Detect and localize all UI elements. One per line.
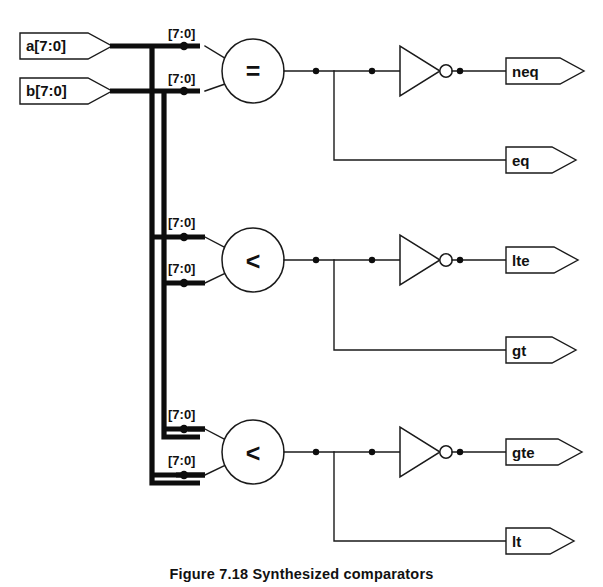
comparator-less-than-lower[interactable]: < — [205, 420, 284, 484]
net-lt-lower-junction-2 — [369, 449, 375, 455]
output-port-lt-label: lt — [512, 533, 521, 550]
figure-caption: Figure 7.18 Synthesized comparators — [0, 566, 603, 582]
inverter-lte-output-dot — [457, 257, 463, 263]
net-equal — [284, 68, 506, 160]
bus-tap-dot-4 — [180, 279, 188, 287]
input-port-b-label: b[7:0] — [26, 82, 67, 99]
net-equal-junction-1 — [313, 68, 319, 74]
inverter-neq-triangle — [400, 46, 440, 96]
inverter-gte[interactable] — [400, 427, 506, 477]
inverter-neq[interactable] — [400, 46, 506, 96]
inverter-gte-triangle — [400, 427, 440, 477]
output-port-eq-label: eq — [512, 152, 530, 169]
inverter-neq-bubble — [440, 65, 452, 77]
bus-width-label-4: [7:0] — [168, 261, 195, 276]
output-port-lte[interactable]: lte — [506, 247, 578, 273]
bus-width-label-2: [7:0] — [168, 71, 195, 86]
output-port-gt-label: gt — [512, 342, 526, 359]
inverter-neq-output-dot — [457, 68, 463, 74]
input-port-a[interactable]: a[7:0] — [20, 33, 112, 59]
net-equal-junction-2 — [369, 68, 375, 74]
output-port-gte-label: gte — [512, 444, 535, 461]
net-lt-upper-junction-1 — [313, 257, 319, 263]
bus-width-label-3: [7:0] — [168, 215, 195, 230]
input-port-b[interactable]: b[7:0] — [20, 78, 112, 104]
inverter-gte-output-dot — [457, 449, 463, 455]
comparator-lt-lower-operator: < — [246, 439, 261, 467]
bus-tap-dot-6 — [180, 471, 188, 479]
inverter-lte[interactable] — [400, 235, 506, 285]
output-port-neq[interactable]: neq — [506, 58, 584, 84]
bus-width-label-5: [7:0] — [168, 407, 195, 422]
output-port-neq-label: neq — [512, 63, 539, 80]
output-port-gt[interactable]: gt — [506, 337, 576, 363]
input-port-a-label: a[7:0] — [26, 37, 66, 54]
comparator-equal[interactable]: = — [205, 39, 284, 103]
output-port-lte-label: lte — [512, 252, 530, 269]
inverter-gte-bubble — [440, 446, 452, 458]
net-lt-upper-junction-2 — [369, 257, 375, 263]
comparator-equal-operator: = — [246, 57, 261, 85]
figure-canvas: a[7:0] b[7:0] — [0, 0, 603, 587]
inverter-lte-bubble — [440, 254, 452, 266]
net-lt-upper — [284, 257, 506, 350]
bus-tap-dot-3 — [180, 233, 188, 241]
comparator-lt-upper-operator: < — [246, 247, 261, 275]
bus-width-label-1: [7:0] — [168, 26, 195, 41]
circuit-diagram: a[7:0] b[7:0] — [0, 0, 603, 587]
bus-tap-dot-2 — [180, 87, 188, 95]
bus-tap-dot-1 — [180, 42, 188, 50]
bus-width-label-6: [7:0] — [168, 453, 195, 468]
net-lt-lower-junction-1 — [313, 449, 319, 455]
output-port-lt[interactable]: lt — [506, 528, 574, 554]
net-lt-lower — [284, 449, 506, 541]
comparator-less-than-upper[interactable]: < — [205, 228, 284, 292]
net-lt-upper-branch-to-gt — [334, 260, 506, 350]
bus-tap-dot-5 — [180, 425, 188, 433]
bus-taps-middle — [152, 237, 205, 283]
output-port-gte[interactable]: gte — [506, 439, 582, 465]
inverter-lte-triangle — [400, 235, 440, 285]
output-port-eq[interactable]: eq — [506, 147, 576, 173]
